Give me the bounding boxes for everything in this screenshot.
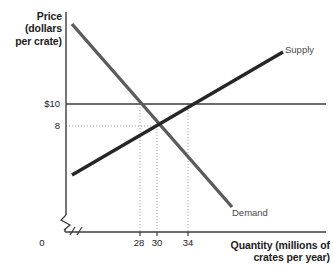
y-tick-label-price-10: $10 bbox=[26, 98, 60, 109]
x-tick-label-origin: 0 bbox=[34, 237, 50, 248]
x-axis-break-mark-1 bbox=[70, 227, 75, 235]
supply-demand-chart: Price (dollars per crate) Quantity (mill… bbox=[0, 0, 333, 266]
x-axis-break-mark-2 bbox=[77, 227, 82, 235]
x-tick-label-34: 34 bbox=[179, 237, 197, 248]
x-tick-label-28: 28 bbox=[130, 237, 148, 248]
supply-curve-label: Supply bbox=[285, 44, 314, 55]
supply-curve bbox=[72, 52, 283, 175]
demand-curve-label: Demand bbox=[232, 207, 268, 218]
y-axis-break-mark bbox=[61, 215, 70, 230]
x-tick-label-30: 30 bbox=[148, 237, 166, 248]
x-axis-title: Quantity (millions of crates per year) bbox=[196, 239, 330, 264]
demand-curve bbox=[72, 24, 232, 207]
y-tick-label-price-8: 8 bbox=[26, 120, 60, 131]
y-axis-title: Price (dollars per crate) bbox=[4, 10, 62, 47]
